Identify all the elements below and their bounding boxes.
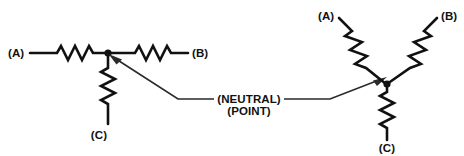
left-branch-b-wire	[108, 46, 188, 60]
schematic-diagram: (A) (B) (C) (NEUTRAL) (POINT)	[0, 0, 464, 156]
right-branch-a-wire	[339, 18, 386, 84]
left-label-b: (B)	[192, 47, 208, 59]
left-label-c: (C)	[91, 129, 107, 141]
right-branch-c-wire	[380, 84, 394, 140]
right-neutral-node-dot	[383, 80, 390, 87]
left-label-a: (A)	[8, 47, 24, 59]
right-label-b: (B)	[441, 10, 457, 22]
right-callout-leader-line	[284, 80, 379, 99]
left-callout-leader-line	[116, 59, 214, 99]
right-label-a: (A)	[318, 10, 334, 22]
left-wye-figure: (A) (B) (C)	[8, 46, 208, 141]
callout-line-point: (POINT)	[227, 105, 271, 117]
neutral-point-callout-text: (NEUTRAL) (POINT)	[217, 93, 281, 117]
left-callout-arrowhead	[109, 54, 123, 65]
schematic-canvas: (A) (B) (C) (NEUTRAL) (POINT)	[0, 0, 464, 156]
left-branch-a-wire	[30, 46, 108, 60]
right-branch-b-wire	[387, 18, 437, 84]
callout-line-neutral: (NEUTRAL)	[217, 93, 281, 105]
right-label-c: (C)	[379, 142, 395, 154]
right-wye-figure: (A) (B) (C)	[318, 10, 457, 154]
left-branch-c-wire	[101, 53, 115, 124]
